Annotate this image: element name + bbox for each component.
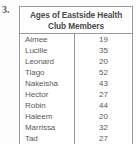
table-title-line-2: Club Members <box>20 21 132 32</box>
member-name: Tiago <box>25 67 71 78</box>
member-age: 20 <box>75 111 132 122</box>
member-age: 44 <box>75 100 132 111</box>
member-age: 32 <box>75 122 132 133</box>
worksheet-problem-figure: 3. Ages of Eastside Health Club Members … <box>0 0 136 144</box>
table-title-line-1: Ages of Eastside Health <box>20 10 132 21</box>
table-row: Leonard 20 <box>20 56 132 67</box>
table-row: Tiago 52 <box>20 67 132 78</box>
member-name: Leonard <box>25 56 71 67</box>
table-row: Nakeisha 43 <box>20 78 132 89</box>
member-age: 19 <box>75 34 132 45</box>
table-row: Aimee 19 <box>20 34 132 45</box>
table-body: Aimee 19 Lucille 35 Leonard 20 Tiago 52 … <box>20 34 132 144</box>
member-name: Lucille <box>25 45 71 56</box>
member-age: 52 <box>75 67 132 78</box>
member-name: Haleem <box>25 111 71 122</box>
member-name: Tad <box>25 133 71 144</box>
table-row: Robin 44 <box>20 100 132 111</box>
member-age: 43 <box>75 78 132 89</box>
member-name: Marrissa <box>25 122 71 133</box>
member-age: 35 <box>75 45 132 56</box>
question-number: 3. <box>2 5 10 15</box>
table-row: Hector 27 <box>20 89 132 100</box>
member-name: Robin <box>25 100 71 111</box>
table-row: Haleem 20 <box>20 111 132 122</box>
member-age: 20 <box>75 56 132 67</box>
member-name: Hector <box>25 89 71 100</box>
table-row: Marrissa 32 <box>20 122 132 133</box>
table-header: Ages of Eastside Health Club Members <box>20 7 132 34</box>
ages-data-table: Ages of Eastside Health Club Members Aim… <box>19 6 133 144</box>
member-age: 27 <box>75 133 132 144</box>
member-name: Nakeisha <box>25 78 71 89</box>
table-row: Lucille 35 <box>20 45 132 56</box>
member-age: 27 <box>75 89 132 100</box>
member-name: Aimee <box>25 34 71 45</box>
table-row: Tad 27 <box>20 133 132 144</box>
